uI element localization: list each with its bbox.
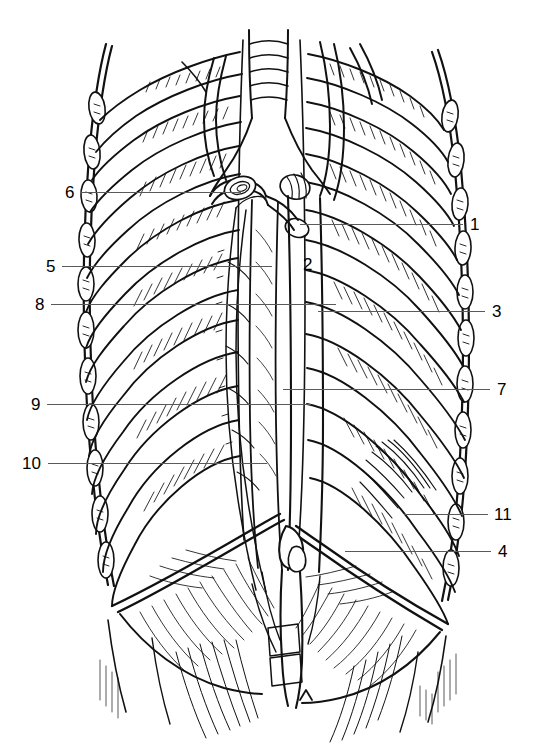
label-6: 6 xyxy=(65,184,74,201)
leader-line-6 xyxy=(81,192,241,193)
leader-line-3 xyxy=(318,311,485,312)
leader-line-4 xyxy=(345,551,491,552)
anatomy-illustration xyxy=(0,0,539,753)
leader-line-10 xyxy=(48,463,267,464)
label-10: 10 xyxy=(22,455,41,472)
vertebral-column xyxy=(238,40,305,540)
leader-line-8 xyxy=(51,304,336,305)
leader-line-1 xyxy=(300,224,463,225)
leader-line-9 xyxy=(47,404,311,405)
label-2: 2 xyxy=(303,256,312,273)
trachea-and-bronchi xyxy=(210,30,330,241)
leader-line-11 xyxy=(404,514,488,515)
diaphragmatic-hiatus-and-crura xyxy=(252,526,320,708)
left-intercostal-hatching xyxy=(134,67,228,511)
label-8: 8 xyxy=(35,296,44,313)
bottom-edge-hatching xyxy=(100,654,456,724)
label-11: 11 xyxy=(494,506,512,523)
mediastinal-connective-detail xyxy=(216,250,232,444)
leader-line-7 xyxy=(283,389,490,390)
right-costovertebral-joints xyxy=(440,99,474,586)
left-ribs xyxy=(86,52,242,606)
illustration-linework xyxy=(78,30,474,742)
label-1: 1 xyxy=(470,216,479,233)
anatomy-figure: 1 2 3 4 5 6 7 8 9 10 11 xyxy=(0,0,539,753)
label-7: 7 xyxy=(497,381,506,398)
label-5: 5 xyxy=(46,258,55,275)
label-3: 3 xyxy=(492,303,501,320)
leader-line-5 xyxy=(62,266,272,267)
label-9: 9 xyxy=(31,396,40,413)
label-4: 4 xyxy=(498,543,507,560)
